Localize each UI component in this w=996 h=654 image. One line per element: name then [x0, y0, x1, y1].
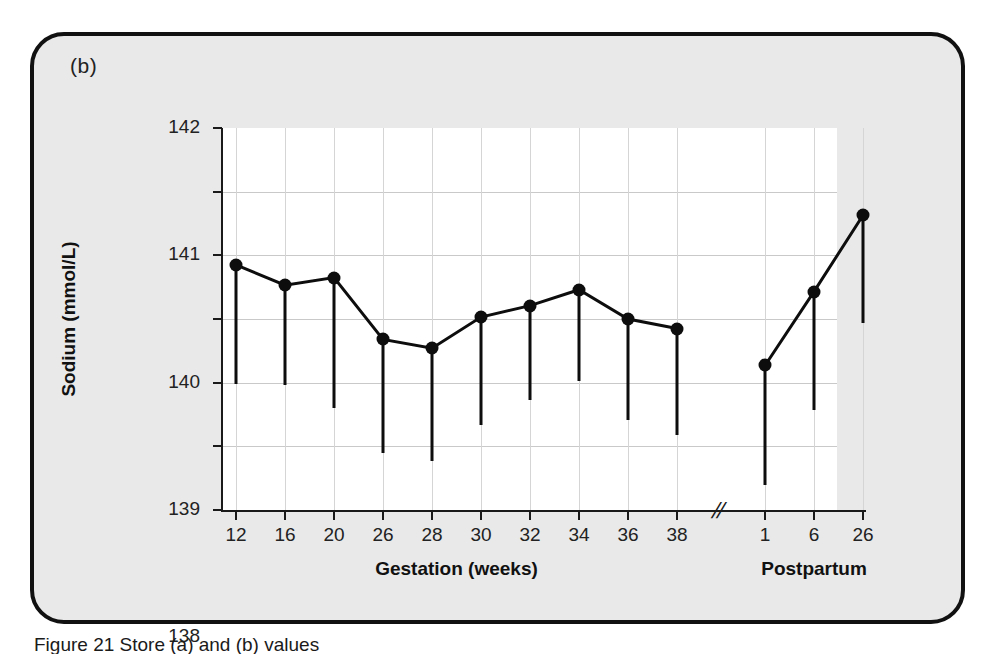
y-axis-tick: 136: [213, 509, 222, 511]
x-axis-tick-label: 26: [852, 524, 873, 546]
y-axis-tick: 140: [213, 254, 222, 256]
x-axis-tick: [764, 510, 766, 520]
y-axis-tick: 139: [213, 318, 222, 320]
data-point-marker[interactable]: [279, 279, 292, 292]
error-bar: [578, 290, 581, 382]
y-axis-title-text: Sodium (mmol/L): [58, 241, 80, 396]
x-axis-tick: [333, 510, 335, 520]
x-axis-tick: [813, 510, 815, 520]
y-axis-tick: 141: [213, 191, 222, 193]
y-axis-tick: 137: [213, 445, 222, 447]
x-axis-tick-label: 30: [470, 524, 491, 546]
x-axis-tick: [480, 510, 482, 520]
error-bar: [235, 265, 238, 384]
data-point-marker[interactable]: [524, 299, 537, 312]
data-point-marker[interactable]: [230, 258, 243, 271]
data-point-marker[interactable]: [573, 283, 586, 296]
error-bar: [333, 278, 336, 409]
error-bar: [764, 365, 767, 484]
error-bar: [480, 317, 483, 425]
data-point-marker[interactable]: [475, 311, 488, 324]
y-axis-tick: 138: [213, 382, 222, 384]
x-axis-tick: [578, 510, 580, 520]
error-bar: [284, 285, 287, 384]
x-axis-tick-label: 16: [274, 524, 295, 546]
data-point-marker[interactable]: [808, 285, 821, 298]
figure-panel: (b) Sodium (mmol/L) 13613713813914014114…: [30, 32, 965, 624]
x-axis-tick-label: 36: [617, 524, 638, 546]
x-axis-tick: [284, 510, 286, 520]
data-point-marker[interactable]: [671, 322, 684, 335]
x-axis-tick-label: 34: [568, 524, 589, 546]
series-segment: [236, 265, 677, 348]
error-bar: [862, 215, 865, 323]
error-bar: [676, 329, 679, 435]
y-axis-title: Sodium (mmol/L): [56, 128, 82, 510]
x-axis-tick: [627, 510, 629, 520]
data-point-marker[interactable]: [328, 271, 341, 284]
y-axis-tick-label: 139: [168, 498, 200, 520]
x-axis-tick-label: 6: [809, 524, 820, 546]
x-axis-tick-label: 38: [666, 524, 687, 546]
data-point-marker[interactable]: [426, 342, 439, 355]
data-point-marker[interactable]: [377, 333, 390, 346]
x-axis-tick-label: 26: [372, 524, 393, 546]
error-bar: [431, 348, 434, 461]
data-point-marker[interactable]: [857, 209, 870, 222]
x-axis-tick: [382, 510, 384, 520]
y-axis-tick-label: 142: [168, 116, 200, 138]
panel-label: (b): [70, 54, 97, 78]
chart-plot-area: 136137138139140141142 121620262830323436…: [222, 128, 837, 510]
x-axis-tick: [529, 510, 531, 520]
x-axis-tick-label: 1: [760, 524, 771, 546]
x-axis-group-title-postpartum: Postpartum: [761, 558, 867, 580]
error-bar: [382, 339, 385, 452]
x-axis-tick-label: 12: [225, 524, 246, 546]
x-axis-tick: [235, 510, 237, 520]
y-axis-tick-label: 141: [168, 243, 200, 265]
y-axis-tick: 142: [213, 127, 222, 129]
x-axis-tick: [862, 510, 864, 520]
x-axis-group-title-gestation: Gestation (weeks): [375, 558, 538, 580]
figure-caption: Figure 21 Store (a) and (b) values: [34, 634, 319, 654]
x-axis-tick: [431, 510, 433, 520]
data-point-marker[interactable]: [759, 359, 772, 372]
x-axis-tick-label: 20: [323, 524, 344, 546]
y-axis-tick-label: 140: [168, 371, 200, 393]
x-axis-line: [221, 510, 866, 512]
data-point-marker[interactable]: [622, 313, 635, 326]
error-bar: [529, 306, 532, 401]
x-axis-tick-label: 28: [421, 524, 442, 546]
error-bar: [627, 319, 630, 420]
x-axis-tick-label: 32: [519, 524, 540, 546]
error-bar: [813, 292, 816, 410]
x-axis-tick: [676, 510, 678, 520]
